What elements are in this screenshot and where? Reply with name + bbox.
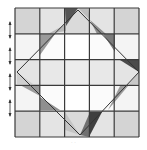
double-arrow-icon <box>9 47 12 65</box>
puzzle-diagram <box>0 0 147 150</box>
grid-cell <box>114 111 139 137</box>
grid-cell <box>114 8 139 34</box>
grid-cell <box>65 34 90 60</box>
grid-cell <box>65 60 90 86</box>
figure-caption: · · <box>0 139 147 145</box>
grid-cell <box>15 8 40 34</box>
grid-cell <box>89 60 114 86</box>
grid-cell <box>15 34 40 60</box>
side-arrow-markers <box>9 21 12 117</box>
grid-cell <box>114 34 139 60</box>
grid-cell <box>114 85 139 111</box>
double-arrow-icon <box>9 21 12 39</box>
grid-cell <box>15 111 40 137</box>
grid-cell <box>40 60 65 86</box>
grid-cell <box>40 111 65 137</box>
double-arrow-icon <box>9 73 12 91</box>
grid-cell <box>89 8 114 34</box>
double-arrow-icon <box>9 99 12 117</box>
grid-cell <box>89 85 114 111</box>
grid-cell <box>65 85 90 111</box>
grid-cells <box>15 8 139 137</box>
